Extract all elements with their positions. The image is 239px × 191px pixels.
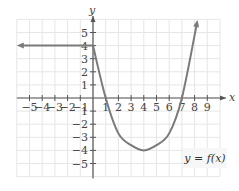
y-tick-label: 3	[81, 53, 88, 66]
x-tick-label: 4	[140, 101, 147, 114]
x-axis-arrow-icon	[220, 96, 226, 101]
function-label-box: y = f(x)	[183, 148, 227, 168]
x-tick-label: 5	[153, 101, 160, 114]
y-tick-label: −2	[72, 118, 88, 131]
y-tick-label: 1	[81, 105, 88, 118]
y-tick-label: 2	[81, 66, 88, 79]
x-tick-label: 6	[166, 101, 173, 114]
y-axis-label: y	[88, 4, 96, 17]
up-arrow-icon	[193, 20, 199, 27]
x-axis-label: x	[229, 91, 236, 104]
y-tick-label: 1	[81, 79, 88, 92]
y-tick-label: 5	[81, 27, 88, 40]
x-tick-label: 9	[204, 101, 211, 114]
function-label: y = f(x)	[183, 152, 225, 165]
y-tick-label: −5	[72, 158, 88, 171]
y-tick-label: −3	[72, 131, 88, 144]
x-tick-label: 2	[115, 101, 122, 114]
y-tick-label: −4	[72, 144, 88, 157]
left-arrow-icon	[17, 43, 24, 49]
x-tick-label: 8	[191, 101, 198, 114]
function-graph: −5−4−3−2−1123456789543211−2−3−4−5 y = f(…	[0, 0, 239, 191]
x-tick-label: 3	[128, 101, 135, 114]
